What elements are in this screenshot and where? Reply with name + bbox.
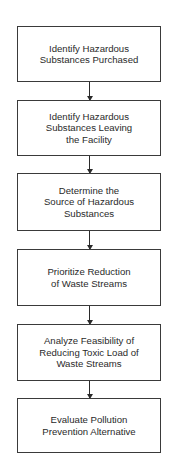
arrow-down-icon <box>89 82 90 100</box>
step-label: Identify Hazardous Substances Purchased <box>40 43 139 66</box>
step-identify-purchased: Identify Hazardous Substances Purchased <box>17 26 161 82</box>
step-prioritize-reduction: Prioritize Reduction of Waste Streams <box>17 249 161 306</box>
step-label: Determine the Source of Hazardous Substa… <box>44 185 134 220</box>
arrow-down-icon <box>89 231 90 249</box>
step-label: Identify Hazardous Substances Leaving th… <box>46 111 132 146</box>
step-label: Analyze Feasibility of Reducing Toxic Lo… <box>39 335 139 370</box>
arrow-down-icon <box>89 306 90 324</box>
step-determine-source: Determine the Source of Hazardous Substa… <box>17 173 161 231</box>
step-analyze-feasibility: Analyze Feasibility of Reducing Toxic Lo… <box>17 324 161 381</box>
arrow-down-icon <box>89 156 90 173</box>
step-evaluate-alternative: Evaluate Pollution Prevention Alternativ… <box>17 398 161 453</box>
step-label: Evaluate Pollution Prevention Alternativ… <box>42 414 135 437</box>
step-label: Prioritize Reduction of Waste Streams <box>47 266 130 289</box>
arrow-down-icon <box>89 381 90 398</box>
step-identify-leaving: Identify Hazardous Substances Leaving th… <box>17 100 161 156</box>
